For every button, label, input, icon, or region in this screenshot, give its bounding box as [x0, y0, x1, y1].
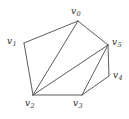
vertex-label-subscript: 0: [76, 10, 80, 18]
graph-figure: v0v1v2v3v4v5: [0, 0, 129, 119]
vertex-label-v3: v3: [73, 99, 82, 108]
graph-edge-v0-v5: [78, 21, 108, 45]
graph-edge-v3-v4: [82, 76, 109, 95]
vertex-label-subscript: 5: [117, 41, 121, 49]
vertex-label-v2: v2: [25, 99, 34, 108]
vertex-label-v4: v4: [113, 71, 122, 80]
vertex-label-subscript: 4: [118, 74, 122, 82]
vertex-label-subscript: 1: [12, 40, 16, 48]
vertex-label-v1: v1: [7, 37, 16, 46]
graph-edge-v2-v5: [33, 45, 108, 95]
graph-edge-v1-v2: [24, 43, 33, 95]
vertex-label-subscript: 3: [78, 102, 82, 110]
graph-edge-v0-v2: [33, 21, 78, 95]
graph-edge-v3-v5: [82, 45, 108, 95]
graph-edge-v0-v1: [24, 21, 78, 43]
graph-edge-v4-v5: [108, 45, 109, 76]
graph-edges-canvas: [0, 0, 129, 119]
vertex-label-v0: v0: [71, 7, 80, 16]
vertex-label-subscript: 2: [30, 102, 34, 110]
vertex-label-v5: v5: [112, 38, 121, 47]
